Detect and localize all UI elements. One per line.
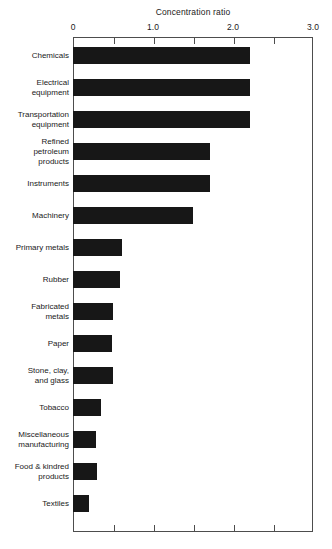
bars-container [73,37,313,532]
bar [73,303,113,320]
bar [73,239,122,256]
category-label: Machinery [0,211,69,221]
bar [73,47,250,64]
category-label: Primary metals [0,243,69,253]
bar [73,271,120,288]
concentration-ratio-bar-chart: Concentration ratio 01.02.03.0 Chemicals… [0,0,332,549]
x-tick-label: 1.0 [147,22,159,32]
category-label: Textiles [0,499,69,509]
bar [73,175,210,192]
chart-title: Concentration ratio [0,7,332,17]
category-label: Miscellaneous manufacturing [0,430,69,450]
bar [73,463,97,480]
bar [73,495,89,512]
chart-title-text: Concentration ratio [156,7,231,17]
x-tick-label: 3.0 [307,22,319,32]
category-label: Tobacco [0,403,69,413]
category-label: Instruments [0,179,69,189]
bar [73,79,250,96]
bar [73,399,101,416]
x-axis-tick-labels: 01.02.03.0 [0,22,332,34]
bar [73,335,112,352]
bar [73,111,250,128]
category-label: Rubber [0,275,69,285]
bar [73,207,193,224]
category-labels: ChemicalsElectrical equipmentTransportat… [0,37,69,532]
x-tick-label: 2.0 [227,22,239,32]
category-label: Paper [0,339,69,349]
x-tick-label: 0 [71,22,76,32]
category-label: Electrical equipment [0,78,69,98]
bar [73,431,96,448]
bar [73,143,210,160]
category-label: Fabricated metals [0,302,69,322]
bar [73,367,113,384]
category-label: Refined petroleum products [0,137,69,167]
category-label: Stone, clay, and glass [0,366,69,386]
category-label: Food & kindred products [0,462,69,482]
category-label: Transportation equipment [0,110,69,130]
category-label: Chemicals [0,51,69,61]
